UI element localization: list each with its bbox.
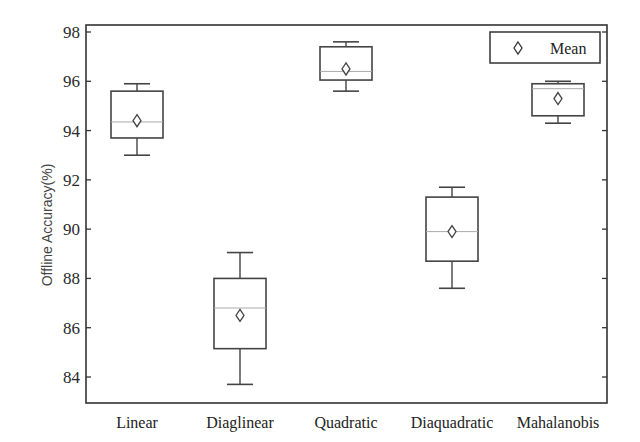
y-axis-label: Offline Accuracy(%) [39,164,55,287]
y-tick-label: 88 [63,269,80,288]
boxes [111,42,584,385]
y-tick-label: 94 [63,122,81,141]
y-tick-label: 98 [63,23,80,42]
legend-label: Mean [550,40,586,57]
y-tick-label: 92 [63,171,80,190]
x-category-label: Linear [116,414,158,431]
x-category-label: Diaquadratic [411,414,494,432]
y-tick-label: 96 [63,72,80,91]
legend: Mean [490,32,600,63]
x-category-label: Mahalanobis [517,414,600,431]
box-linear [111,84,163,155]
x-category-label: Quadratic [314,414,377,431]
y-tick-label: 86 [63,319,80,338]
x-axis: LinearDiaglinearQuadraticDiaquadraticMah… [116,414,599,432]
box-plot-chart: 8486889092949698 LinearDiaglinearQuadrat… [0,0,640,442]
box-diaglinear [214,253,266,385]
y-tick-label: 84 [63,368,81,387]
x-category-label: Diaglinear [206,414,274,432]
y-tick-label: 90 [63,220,80,239]
box-mahalanobis [532,81,584,123]
box-diaquadratic [426,187,478,288]
box-quadratic [320,42,372,91]
